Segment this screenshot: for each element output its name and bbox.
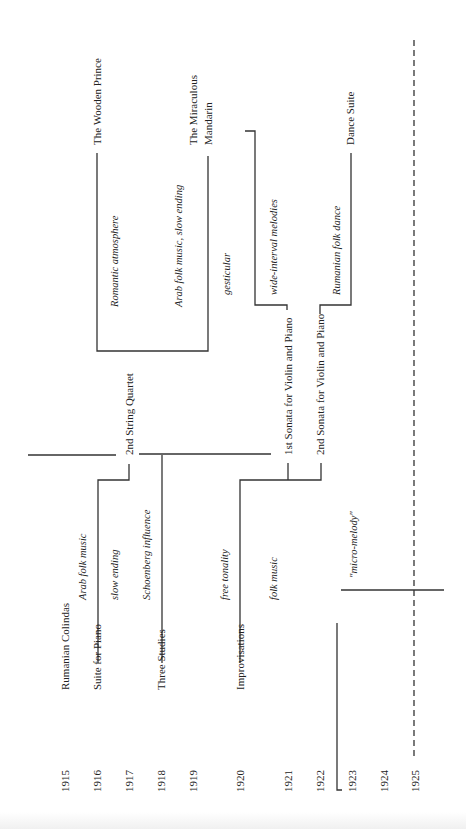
annotation-text: wide-interval melodies bbox=[268, 199, 279, 295]
work-title: 2nd String Quartet bbox=[123, 373, 135, 455]
bottom-page-edge bbox=[0, 812, 466, 829]
annotation-text: Arab folk music, slow ending bbox=[173, 185, 184, 308]
annotation-text: "micro-melody" bbox=[348, 511, 359, 578]
bartok-works-timeline-diagram: 1915191619171918191919201921192219231924… bbox=[0, 0, 466, 829]
work-title: Mandarin bbox=[202, 102, 214, 145]
annotation-text: Rumanian folk dance bbox=[331, 205, 342, 296]
work-title: The Miraculous bbox=[187, 75, 199, 145]
annotation-text: gesticular bbox=[221, 252, 232, 295]
work-title: Dance Suite bbox=[344, 91, 356, 145]
year-label: 1921 bbox=[282, 770, 294, 792]
line-1923-marker bbox=[337, 623, 342, 790]
annotation-text: slow ending bbox=[109, 550, 120, 600]
year-label: 1925 bbox=[409, 770, 421, 793]
bracket-sonata1-wide-interval bbox=[245, 131, 287, 310]
annotation-text: Romantic atmosphere bbox=[109, 215, 120, 308]
annotation-text: Arab folk music bbox=[77, 533, 88, 601]
work-titles: Rumanian ColindasSuite for PianoThree St… bbox=[59, 58, 356, 690]
annotation-text: Schoenberg influence bbox=[141, 509, 152, 600]
year-label: 1919 bbox=[187, 770, 199, 793]
work-title: Rumanian Colindas bbox=[59, 603, 71, 690]
year-label: 1924 bbox=[378, 770, 390, 793]
year-label: 1916 bbox=[91, 770, 103, 793]
year-label: 1920 bbox=[234, 770, 246, 793]
year-label: 1918 bbox=[155, 770, 167, 793]
year-label: 1923 bbox=[346, 770, 358, 793]
work-title: 1st Sonata for Violin and Piano bbox=[282, 317, 294, 455]
work-title: Suite for Piano bbox=[91, 624, 103, 690]
work-title: 2nd Sonata for Violin and Piano bbox=[314, 313, 326, 455]
year-axis: 1915191619171918191919201921192219231924… bbox=[59, 770, 421, 793]
year-label: 1915 bbox=[59, 770, 71, 793]
work-title: Improvisations bbox=[234, 624, 246, 690]
work-title: Three Studies bbox=[155, 629, 167, 690]
year-label: 1922 bbox=[314, 770, 326, 792]
year-label: 1917 bbox=[123, 770, 135, 793]
annotation-text: folk music bbox=[268, 557, 279, 600]
annotation-text: free tonality bbox=[219, 549, 230, 600]
line-improv-to-sonatas bbox=[240, 463, 321, 663]
work-title: The Wooden Prince bbox=[91, 58, 103, 145]
